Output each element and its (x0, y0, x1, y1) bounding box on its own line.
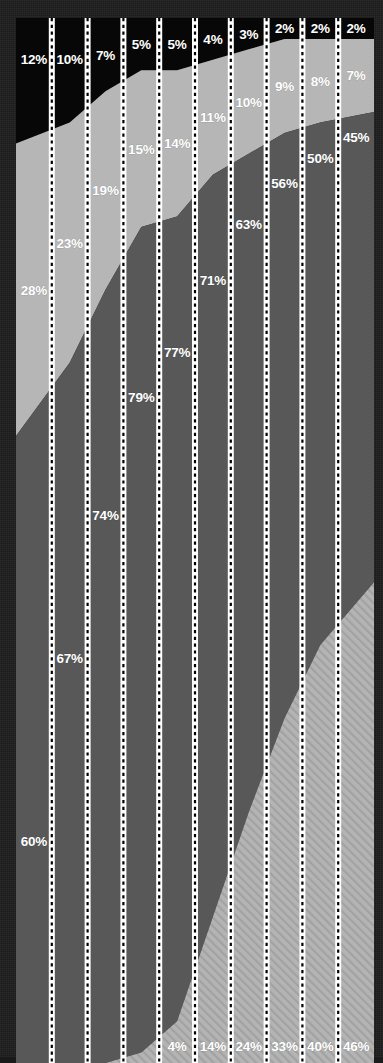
chart-canvas: 12%10%7%5%5%4%3%2%2%2%28%23%19%15%14%11%… (16, 18, 374, 1063)
data-label-band-1-top-black-5: 5% (168, 37, 187, 52)
data-label-band-4-bottom-hatched-10: 46% (343, 1039, 370, 1054)
data-label-band-2-light-gray-4: 15% (128, 142, 155, 157)
data-label-band-1-top-black-10: 2% (347, 21, 366, 36)
data-label-band-3-dark-gray-7: 63% (235, 217, 262, 232)
data-label-band-1-top-black-3: 7% (96, 48, 115, 63)
data-label-band-3-dark-gray-8: 56% (271, 176, 298, 191)
data-label-band-4-bottom-hatched-5: 4% (168, 1039, 187, 1054)
data-label-band-2-light-gray-9: 8% (311, 74, 330, 89)
data-label-band-2-light-gray-8: 9% (275, 79, 294, 94)
data-label-band-1-top-black-1: 12% (21, 52, 48, 67)
data-label-band-1-top-black-6: 4% (203, 32, 222, 47)
data-label-band-3-dark-gray-4: 79% (128, 390, 155, 405)
data-label-band-2-light-gray-3: 19% (92, 183, 119, 198)
data-label-band-4-bottom-hatched-9: 40% (307, 1039, 334, 1054)
data-label-band-2-light-gray-7: 10% (235, 95, 262, 110)
data-label-band-3-dark-gray-5: 77% (164, 345, 191, 360)
data-label-band-2-light-gray-10: 7% (347, 68, 366, 83)
data-label-band-1-top-black-4: 5% (132, 37, 151, 52)
data-label-band-1-top-black-7: 3% (239, 27, 258, 42)
data-label-band-3-dark-gray-9: 50% (307, 151, 334, 166)
data-label-band-1-top-black-2: 10% (56, 52, 83, 67)
data-label-band-2-light-gray-2: 23% (56, 236, 83, 251)
data-label-band-2-light-gray-5: 14% (164, 136, 191, 151)
stacked-area-chart: 12%10%7%5%5%4%3%2%2%2%28%23%19%15%14%11%… (16, 18, 374, 1063)
data-label-band-1-top-black-9: 2% (311, 21, 330, 36)
data-label-band-3-dark-gray-1: 60% (21, 834, 48, 849)
data-label-band-2-light-gray-1: 28% (21, 283, 48, 298)
data-label-band-3-dark-gray-10: 45% (343, 130, 370, 145)
data-label-band-1-top-black-8: 2% (275, 21, 294, 36)
data-label-band-2-light-gray-6: 11% (200, 110, 226, 125)
data-label-band-3-dark-gray-3: 74% (92, 508, 119, 523)
data-label-band-4-bottom-hatched-8: 33% (271, 1039, 298, 1054)
data-label-band-3-dark-gray-6: 71% (200, 273, 227, 288)
data-label-band-4-bottom-hatched-6: 14% (200, 1039, 227, 1054)
data-label-band-4-bottom-hatched-7: 24% (235, 1039, 262, 1054)
data-label-band-3-dark-gray-2: 67% (56, 651, 83, 666)
